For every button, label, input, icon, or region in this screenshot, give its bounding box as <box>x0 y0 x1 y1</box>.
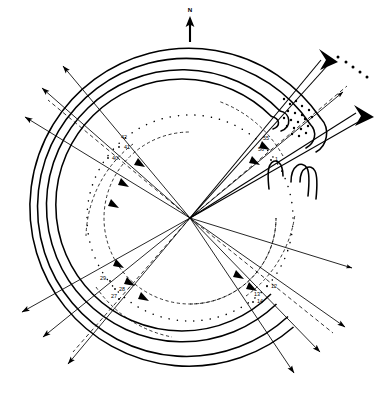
arc-head-ur-1 <box>249 156 260 165</box>
ray-ll-1 <box>22 218 190 312</box>
arc-head-ul-3 <box>108 199 119 208</box>
position-label-12: 12 <box>271 283 277 289</box>
dashray-ur <box>190 86 347 218</box>
position-label-13: 13 <box>254 291 260 297</box>
ray-ul-3 <box>25 117 190 218</box>
diagram-canvas: N <box>0 0 391 394</box>
ray-ll-2 <box>43 218 190 337</box>
position-label-14: 14 <box>257 298 263 304</box>
arc-head-lr-1 <box>233 270 244 279</box>
stipple-trail-upper <box>337 56 369 79</box>
ring-outer-1 <box>30 48 321 366</box>
dashray-ul <box>48 100 190 218</box>
transverse-arc-ul <box>86 144 133 236</box>
ray-exit-upper-a <box>190 60 321 218</box>
north-label: N <box>188 6 193 13</box>
position-label-42: 42 <box>121 134 127 140</box>
exit-arrow-lower-head <box>354 105 374 126</box>
position-label-40: 40 <box>112 155 118 161</box>
ray-lr-1 <box>190 218 294 373</box>
ray-exit-upper-b <box>190 66 327 218</box>
position-label-28: 28 <box>119 286 125 292</box>
position-label-55: 55 <box>263 135 269 141</box>
arc-head-ll-3 <box>138 292 149 301</box>
position-label-27: 27 <box>111 293 117 299</box>
label-tick-dots <box>107 146 272 303</box>
polar-spiral-figure: N <box>0 0 391 394</box>
ray-ul-2 <box>42 88 190 218</box>
position-label-1: 1 <box>275 156 278 162</box>
position-label-56: 56 <box>258 146 264 152</box>
ring-mid-1 <box>46 70 280 342</box>
position-label-29: 29 <box>100 275 106 281</box>
north-indicator: N <box>186 6 195 42</box>
arc-head-lr-2 <box>246 282 257 291</box>
ring-loop-right-3 <box>268 161 283 189</box>
exit-arrow-upper-head <box>319 49 338 70</box>
arc-head-ll-2 <box>124 277 135 286</box>
position-label-41: 41 <box>124 144 130 150</box>
ray-exit-lower-b <box>190 121 360 218</box>
ray-lr-3 <box>190 218 345 327</box>
ring-mid-2 <box>56 79 272 331</box>
ray-ul-1 <box>63 66 190 218</box>
ring-outer-2 <box>38 58 310 356</box>
